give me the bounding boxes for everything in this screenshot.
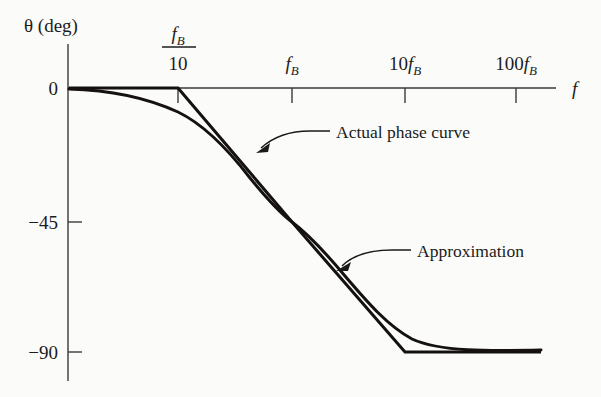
y-tick-label-0: 0	[49, 78, 59, 99]
svg-text:fB: fB	[171, 23, 184, 48]
y-tick-label-minus90: −90	[28, 342, 58, 363]
hundredfb-sub: B	[529, 63, 537, 78]
axis-group	[68, 44, 556, 381]
figure-canvas: 0 −45 −90 θ (deg) f fB 10 fB 10fB 100fB	[0, 0, 601, 397]
actual-phase-curve	[69, 89, 541, 351]
annotation-approximation: Approximation	[336, 241, 524, 271]
annotation-label-actual: Actual phase curve	[336, 122, 470, 142]
leader-line-actual	[261, 131, 330, 148]
x-tick-label-10fb: 10fB	[389, 53, 421, 78]
annotation-actual-phase-curve: Actual phase curve	[256, 122, 470, 153]
fb-sub: B	[291, 63, 299, 78]
x-tick-label-fb-over-10: fB 10	[162, 23, 196, 74]
x-axis-title: f	[572, 78, 580, 99]
x-tick-label-fb: fB	[285, 53, 298, 78]
frac-denominator: 10	[169, 53, 188, 74]
x-tick-label-100fb: 100fB	[495, 53, 537, 78]
y-tick-label-minus45: −45	[28, 212, 58, 233]
bode-phase-plot: 0 −45 −90 θ (deg) f fB 10 fB 10fB 100fB	[0, 0, 601, 397]
annotation-label-approximation: Approximation	[417, 241, 524, 261]
frac-numerator-sub: B	[177, 33, 185, 48]
leader-line-approximation	[342, 250, 411, 266]
approximation-curve	[69, 88, 541, 352]
tenfb-prefix: 10	[389, 53, 408, 74]
hundredfb-prefix: 100	[495, 53, 524, 74]
y-axis-title: θ (deg)	[24, 15, 78, 37]
tenfb-sub: B	[413, 63, 421, 78]
arrowhead-actual	[256, 143, 270, 153]
